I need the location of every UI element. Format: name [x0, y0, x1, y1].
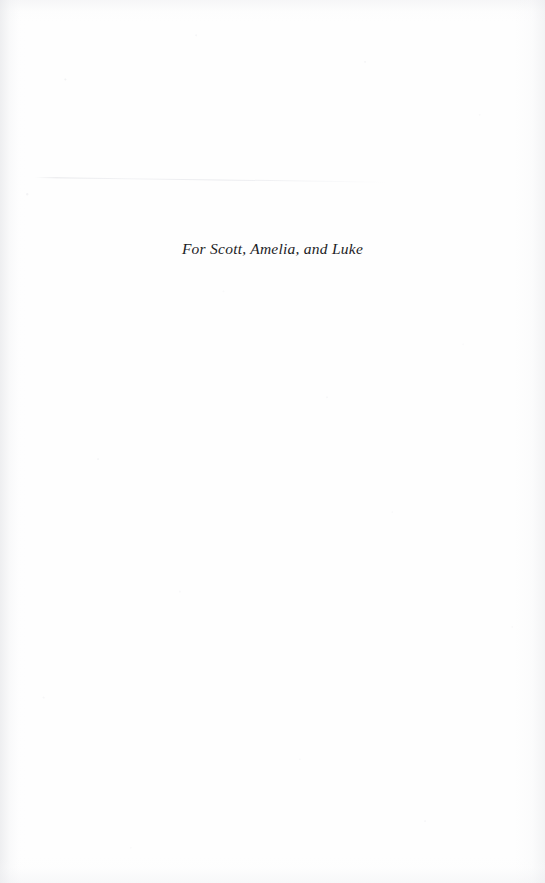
scan-shading-right [515, 0, 545, 883]
scan-shading-top [0, 0, 545, 22]
dedication-text: For Scott, Amelia, and Luke [0, 239, 545, 259]
paper-speckle-texture [0, 0, 545, 883]
dedication-page: For Scott, Amelia, and Luke [0, 0, 545, 883]
scan-shading-bottom [0, 857, 545, 883]
scan-shading-left [0, 0, 26, 883]
scan-streak-line [35, 177, 390, 183]
